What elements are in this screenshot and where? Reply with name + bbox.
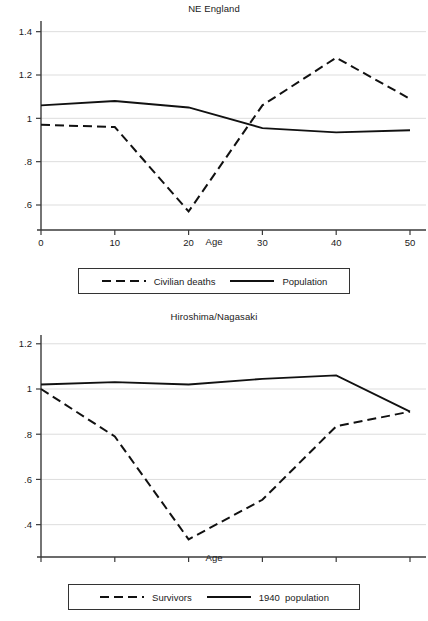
legend-dashed-swatch-icon [99, 593, 145, 601]
series-line-solid [41, 101, 410, 132]
y-axis-tick-label: 1.4 [19, 26, 32, 37]
y-axis-tick-label: 1.2 [19, 338, 32, 349]
legend-hiroshima-nagasaki: Survivors1940 population [68, 584, 360, 610]
figure-root: NE England .6.811.21.401020304050 Age Ci… [0, 0, 428, 621]
chart-panel-ne-england: NE England .6.811.21.401020304050 Age Ci… [0, 0, 428, 305]
series-line-dashed [41, 389, 410, 539]
legend-ne-england: Civilian deathsPopulation [78, 268, 350, 294]
x-axis-label-hn: Age [0, 552, 428, 563]
y-axis-tick-label: .4 [24, 519, 32, 530]
x-axis-tick-label: 10 [110, 564, 121, 566]
x-axis-tick-label: 0 [38, 564, 43, 566]
x-axis-tick-label: 40 [331, 564, 342, 566]
y-axis-tick-label: 1 [27, 383, 32, 394]
y-axis-tick-label: 1 [27, 113, 32, 124]
legend-solid-swatch-icon [229, 277, 275, 285]
legend-entry[interactable]: Survivors [99, 592, 192, 603]
y-axis-tick-label: 1.2 [19, 69, 32, 80]
legend-entry[interactable]: Population [229, 276, 327, 287]
plot-area-ne-england: .6.811.21.401020304050 [0, 0, 428, 250]
plot-area-hiroshima-nagasaki: .4.6.811.201020304050 [0, 308, 428, 566]
chart-panel-hiroshima-nagasaki: Hiroshima/Nagasaki .4.6.811.201020304050… [0, 308, 428, 621]
legend-entry[interactable]: Civilian deaths [101, 276, 216, 287]
series-line-solid [41, 375, 410, 411]
legend-solid-swatch-icon [206, 593, 252, 601]
x-axis-tick-label: 30 [257, 564, 268, 566]
legend-label: Population [282, 276, 327, 287]
x-axis-label-ne: Age [0, 236, 428, 247]
x-axis-tick-label: 20 [183, 564, 194, 566]
series-line-dashed [41, 58, 410, 212]
legend-label: Survivors [152, 592, 192, 603]
legend-label: 1940 population [259, 592, 329, 603]
y-axis-tick-label: .6 [24, 474, 32, 485]
y-axis-tick-label: .8 [24, 429, 32, 440]
x-axis-tick-label: 50 [405, 564, 416, 566]
legend-entry[interactable]: 1940 population [206, 592, 329, 603]
y-axis-tick-label: .8 [24, 156, 32, 167]
legend-dashed-swatch-icon [101, 277, 147, 285]
legend-label: Civilian deaths [154, 276, 216, 287]
y-axis-tick-label: .6 [24, 199, 32, 210]
